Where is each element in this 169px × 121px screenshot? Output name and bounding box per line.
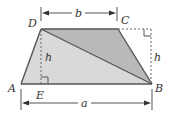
label-vertex-c: C	[121, 14, 130, 27]
label-vertex-d: D	[27, 17, 37, 30]
arrowhead-b-right	[109, 11, 116, 16]
label-a: a	[81, 97, 88, 110]
label-vertex-e: E	[35, 89, 44, 102]
label-h-right: h	[154, 51, 161, 64]
trapezoid-diagram: b D C A B E h h a	[0, 0, 169, 121]
label-vertex-b: B	[154, 82, 163, 95]
arrowhead-a-right	[144, 101, 151, 106]
label-b: b	[75, 7, 82, 20]
right-angle-marker-right	[144, 29, 151, 36]
arrowhead-b-left	[42, 11, 49, 16]
arrowhead-a-left	[22, 101, 29, 106]
label-h-left: h	[45, 51, 52, 64]
label-vertex-a: A	[7, 82, 16, 95]
